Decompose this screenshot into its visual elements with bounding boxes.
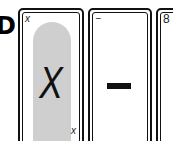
card-face-symbol: X [26,58,76,108]
minus-symbol [107,83,131,89]
card-corner-top: 8 [163,14,170,24]
card-minus[interactable]: − [88,8,152,141]
edge-letter: D [0,14,16,38]
card-eight[interactable]: 8 [156,8,173,141]
card-corner-top: − [95,14,101,24]
card-x[interactable]: x X x [18,8,84,141]
card-corner-bottom: x [71,126,76,136]
card-corner-top: x [25,14,30,24]
